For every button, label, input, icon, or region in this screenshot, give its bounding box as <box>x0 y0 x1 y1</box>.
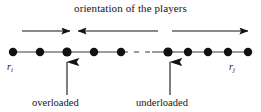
figure-graphics <box>0 0 261 112</box>
player-node <box>184 48 192 56</box>
player-node <box>244 48 252 56</box>
player-node-underloaded <box>163 47 172 56</box>
player-node <box>224 48 232 56</box>
annotation-underloaded: underloaded <box>136 97 188 108</box>
player-node-overloaded <box>62 47 71 56</box>
axis-label-right-subscript: j <box>233 66 235 74</box>
player-chain <box>9 47 252 56</box>
player-node <box>90 48 98 56</box>
axis-label-left: ri <box>7 61 13 74</box>
figure-container: orientation of the players <box>0 0 261 112</box>
pointer-arrow-group <box>67 62 170 95</box>
axis-label-right: rj <box>229 61 235 74</box>
annotation-overloaded: overloaded <box>32 97 79 108</box>
player-node <box>204 48 212 56</box>
player-node <box>117 48 125 56</box>
player-node <box>36 48 44 56</box>
axis-label-left-subscript: i <box>11 66 13 74</box>
player-node <box>9 48 17 56</box>
